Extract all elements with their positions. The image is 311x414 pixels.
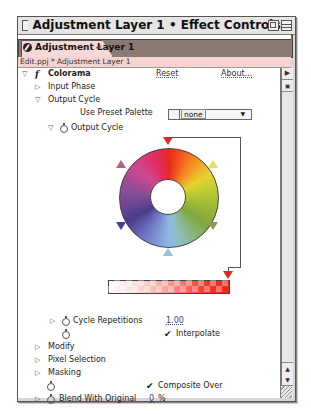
group-modify[interactable]: ▷ Modify xyxy=(18,341,280,353)
blend-value[interactable]: 0 xyxy=(149,393,154,405)
scroll-down-button[interactable]: ▼ xyxy=(282,374,293,386)
tab-label: Adjustment Layer 1 xyxy=(35,42,134,52)
cycle-marker-red[interactable] xyxy=(163,137,173,145)
disclosure-right-icon[interactable]: ▷ xyxy=(35,81,40,93)
cycle-marker-lightblue[interactable] xyxy=(163,248,173,256)
connector-line xyxy=(168,137,241,138)
connector-line xyxy=(240,137,241,268)
stopwatch-icon[interactable] xyxy=(62,331,70,339)
disclosure-right-icon[interactable]: ▷ xyxy=(35,341,40,353)
effect-enabled-icon[interactable] xyxy=(23,43,32,52)
group-output-cycle[interactable]: ▽ Output Cycle xyxy=(18,94,280,106)
disclosure-down-icon[interactable]: ▽ xyxy=(48,122,53,134)
panel-options-icon[interactable]: ▣ xyxy=(282,80,293,92)
palette-swatch xyxy=(169,110,180,119)
disclosure-down-icon[interactable]: ▽ xyxy=(22,68,27,80)
breadcrumb-text: Edit.ppj * Adjustment Layer 1 xyxy=(20,57,131,66)
stopwatch-icon[interactable] xyxy=(47,396,55,404)
use-preset-palette-label: Use Preset Palette xyxy=(80,107,153,119)
effect-name: Colorama xyxy=(48,68,91,80)
pixel-selection-label: Pixel Selection xyxy=(48,354,106,366)
chevron-down-icon: ▼ xyxy=(240,109,245,119)
output-cycle-wheel-center xyxy=(150,179,186,215)
modify-label: Modify xyxy=(48,341,75,353)
cycle-marker-magenta[interactable] xyxy=(116,160,126,168)
cycle-repetitions-label: Cycle Repetitions xyxy=(73,315,142,327)
tab-return-icon: ↵ xyxy=(96,43,103,52)
blend-unit: % xyxy=(158,393,166,405)
gradient-marker-red[interactable] xyxy=(223,271,233,279)
cycle-marker-green[interactable] xyxy=(208,222,218,230)
preset-palette-value: none xyxy=(181,109,206,119)
disclosure-right-icon[interactable]: ▷ xyxy=(35,393,40,405)
fx-toggle-icon[interactable]: f xyxy=(35,68,39,80)
effect-row-colorama[interactable]: ▽ f Colorama Reset About... xyxy=(18,68,280,80)
composite-over-label: Composite Over xyxy=(158,380,222,392)
masking-label: Masking xyxy=(48,367,81,379)
group-input-phase[interactable]: ▷ Input Phase xyxy=(18,81,280,93)
reset-link[interactable]: Reset xyxy=(156,68,178,80)
row-output-cycle-property[interactable]: ▽ Output Cycle xyxy=(18,122,280,134)
row-blend-with-original[interactable]: ▷ Blend With Original 0 % xyxy=(18,393,280,405)
connector-line xyxy=(228,267,241,268)
input-phase-label: Input Phase xyxy=(48,81,95,93)
stopwatch-icon[interactable] xyxy=(62,318,70,326)
composite-over-checkbox[interactable]: ✔ xyxy=(146,380,154,392)
stopwatch-icon[interactable] xyxy=(47,383,55,391)
row-composite-over[interactable]: ✔ Composite Over xyxy=(18,380,280,392)
row-cycle-repetitions[interactable]: ▷ Cycle Repetitions 1.00 xyxy=(18,315,280,327)
group-masking[interactable]: ▷ Masking xyxy=(18,367,280,379)
output-cycle-label: Output Cycle xyxy=(48,94,100,106)
about-link[interactable]: About... xyxy=(221,68,252,80)
stopwatch-icon[interactable] xyxy=(60,125,68,133)
disclosure-right-icon[interactable]: ▷ xyxy=(50,315,55,327)
row-interpolate[interactable]: ✔ Interpolate xyxy=(18,328,280,340)
disclosure-right-icon[interactable]: ▷ xyxy=(35,354,40,366)
blend-with-original-label: Blend With Original xyxy=(59,393,136,405)
interpolate-label: Interpolate xyxy=(176,328,220,340)
resize-grip[interactable] xyxy=(281,386,292,398)
interpolate-checkbox[interactable]: ✔ xyxy=(164,328,172,340)
disclosure-right-icon[interactable]: ▷ xyxy=(35,367,40,379)
vertical-scrollbar[interactable]: ▶ ▣ ▲ ▼ xyxy=(281,68,293,398)
transparency-checker xyxy=(108,280,228,292)
cycle-marker-yellow[interactable] xyxy=(208,160,218,168)
disclosure-down-icon[interactable]: ▽ xyxy=(35,94,40,106)
panel-menu-button[interactable]: ▶ xyxy=(282,68,293,80)
preset-palette-dropdown[interactable]: none ▼ xyxy=(168,109,252,120)
tab-strip-top xyxy=(18,35,291,40)
group-pixel-selection[interactable]: ▷ Pixel Selection xyxy=(18,354,280,366)
cycle-marker-indigo[interactable] xyxy=(116,222,126,230)
cycle-repetitions-value[interactable]: 1.00 xyxy=(166,315,184,327)
breadcrumb: Edit.ppj * Adjustment Layer 1 xyxy=(18,57,291,68)
row-use-preset-palette: Use Preset Palette none ▼ xyxy=(18,107,280,121)
output-cycle-property-label: Output Cycle xyxy=(71,122,123,134)
